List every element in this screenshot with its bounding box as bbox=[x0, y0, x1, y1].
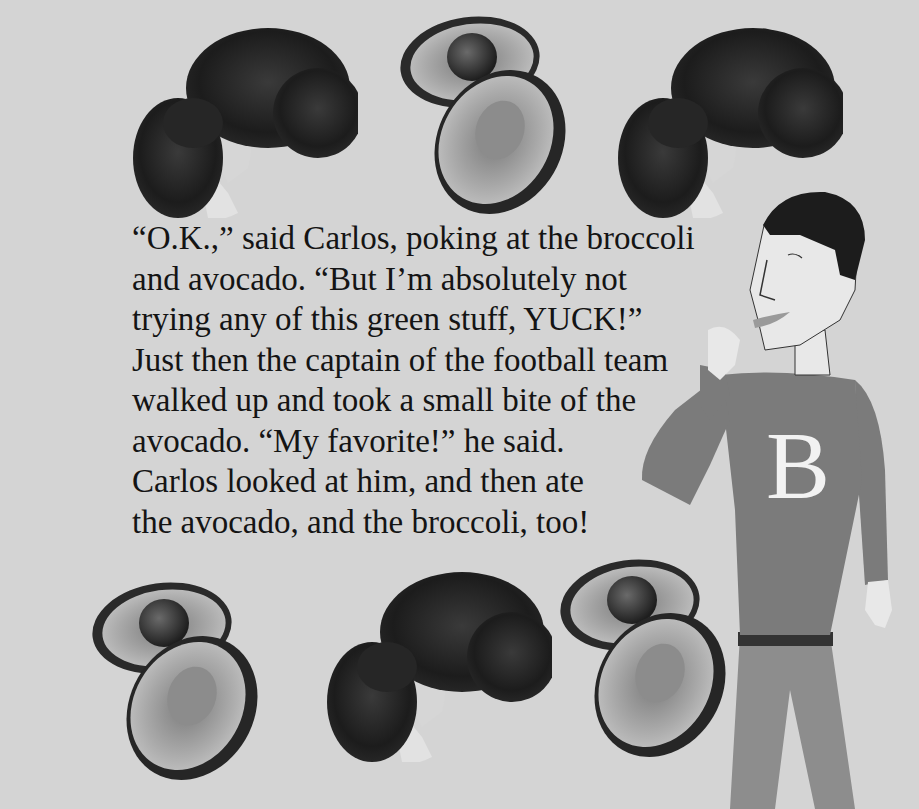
story-line: Just then the captain of the football te… bbox=[132, 340, 695, 381]
story-line: walked up and took a small bite of the bbox=[132, 380, 695, 421]
story-line: the avocado, and the broccoli, too! bbox=[132, 502, 695, 543]
story-line: avocado. “My favorite!” he said. bbox=[132, 421, 695, 462]
broccoli-illustration bbox=[312, 562, 552, 762]
story-line: trying any of this green stuff, YUCK!” bbox=[132, 299, 695, 340]
story-line: Carlos looked at him, and then ate bbox=[132, 461, 695, 502]
broccoli-illustration bbox=[118, 18, 358, 218]
avocado-illustration bbox=[400, 12, 570, 217]
story-line: “O.K.,” said Carlos, poking at the brocc… bbox=[132, 218, 695, 259]
story-line: and avocado. “But I’m absolutely not bbox=[132, 259, 695, 300]
story-text: “O.K.,” said Carlos, poking at the brocc… bbox=[132, 218, 695, 542]
football-captain-illustration: B bbox=[630, 180, 919, 809]
sweater-letter: B bbox=[766, 418, 830, 514]
storybook-page: “O.K.,” said Carlos, poking at the brocc… bbox=[0, 0, 919, 809]
avocado-illustration bbox=[92, 578, 262, 783]
